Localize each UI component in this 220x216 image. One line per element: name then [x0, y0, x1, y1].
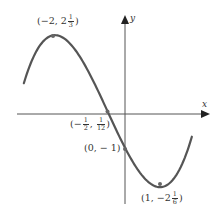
x-axis-arrow-icon	[201, 110, 210, 118]
label-local-min: (1, −216)	[141, 191, 183, 206]
point-local-min	[158, 182, 162, 186]
point-y-intercept	[123, 147, 127, 151]
y-axis-label: y	[130, 13, 135, 23]
x-axis-label: x	[202, 99, 207, 109]
point-local-max	[51, 34, 55, 38]
label-inflection: (−12, 112)	[70, 117, 110, 132]
label-local-max: (−2, 213)	[37, 14, 79, 29]
label-y-intercept: (0, − 1)	[84, 143, 121, 153]
function-graph	[0, 0, 220, 216]
y-axis-arrow-icon	[121, 15, 129, 24]
point-inflection	[106, 110, 110, 114]
